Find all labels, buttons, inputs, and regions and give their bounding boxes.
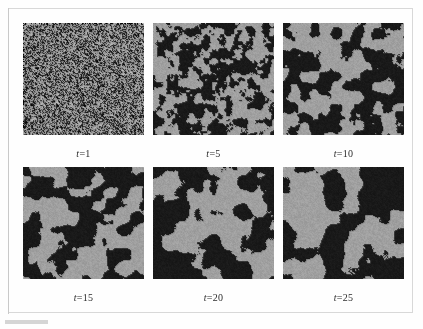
- simulation-panel-t20: [153, 167, 274, 279]
- panel-label-value-t15: 15: [83, 292, 94, 303]
- panel-label-value-t1: 1: [85, 148, 90, 159]
- panel-cell-t1: t=1: [23, 23, 144, 157]
- panel-label-t15: t=15: [74, 292, 94, 303]
- bottom-left-mark: [5, 320, 48, 324]
- panel-label-t20: t=20: [204, 292, 224, 303]
- simulation-panel-t15: [23, 167, 144, 279]
- simulation-panel-t1: [23, 23, 144, 135]
- panel-label-t25: t=25: [334, 292, 354, 303]
- panel-label-t5: t=5: [206, 148, 220, 159]
- panel-label-value-t20: 20: [213, 292, 224, 303]
- panel-label-t1: t=1: [76, 148, 90, 159]
- panel-label-value-t10: 10: [343, 148, 354, 159]
- simulation-panel-t10: [283, 23, 404, 135]
- panel-cell-t5: t=5: [153, 23, 274, 157]
- simulation-panel-t25: [283, 167, 404, 279]
- panel-cell-t25: t=25: [283, 167, 404, 301]
- panel-label-t10: t=10: [334, 148, 354, 159]
- panel-cell-t20: t=20: [153, 167, 274, 301]
- figure-frame: t=1 t=5 t=10 t=15: [8, 8, 413, 313]
- simulation-panel-t5: [153, 23, 274, 135]
- panel-label-value-t5: 5: [215, 148, 220, 159]
- panel-label-value-t25: 25: [343, 292, 354, 303]
- panel-cell-t15: t=15: [23, 167, 144, 301]
- panel-cell-t10: t=10: [283, 23, 404, 157]
- figure-root: t=1 t=5 t=10 t=15: [0, 0, 423, 329]
- panel-grid: t=1 t=5 t=10 t=15: [23, 23, 404, 301]
